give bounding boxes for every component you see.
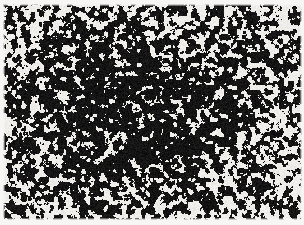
texture-figure: Granular black-and-white speckle texture… xyxy=(0,0,304,225)
noise-texture-canvas xyxy=(0,0,304,225)
